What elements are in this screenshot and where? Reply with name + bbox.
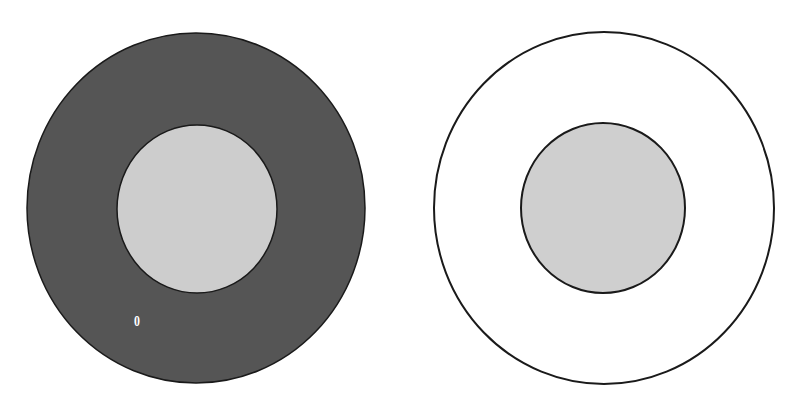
left-figure xyxy=(27,33,365,383)
zero-label: 0 xyxy=(134,315,140,329)
left-inner-disc xyxy=(117,125,277,293)
right-inner-disc xyxy=(521,123,685,293)
right-figure xyxy=(434,32,774,384)
diagram-canvas xyxy=(0,0,800,404)
